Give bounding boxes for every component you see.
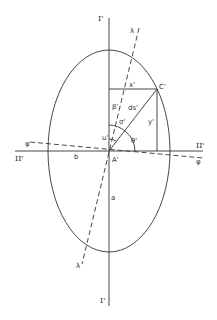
ellipse-diagram: I' I' II' II' λ λ φ φ A' C' x' y' ds' b …	[0, 0, 217, 320]
label-x: x'	[129, 81, 135, 89]
label-horizontal-right: II'	[196, 141, 205, 150]
label-lambda-bottom: λ	[76, 262, 80, 270]
label-u: u'	[102, 134, 108, 142]
label-phi-left: φ	[25, 140, 30, 148]
label-theta: θ'	[131, 137, 137, 145]
label-point-a: A'	[112, 156, 119, 164]
arc-u	[109, 139, 116, 141]
label-sigma: σ'	[119, 118, 125, 126]
label-y: y'	[148, 118, 154, 126]
label-ds: ds'	[128, 104, 138, 112]
label-a: a	[111, 194, 115, 202]
label-point-c: C'	[159, 83, 166, 91]
label-phi-right: φ	[196, 158, 201, 166]
label-horizontal-left: II'	[15, 154, 24, 163]
label-vertical-bottom: I'	[100, 296, 105, 305]
label-lambda-top: λ	[130, 27, 134, 35]
lambda-line	[82, 28, 139, 264]
label-vertical-top: I'	[98, 14, 103, 23]
label-beta: β'	[112, 103, 118, 111]
label-b: b	[74, 153, 79, 161]
